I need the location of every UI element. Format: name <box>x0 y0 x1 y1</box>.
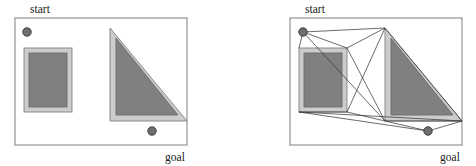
left-panel-canvas: start goal <box>0 0 238 166</box>
right-panel: start goal <box>238 0 476 166</box>
left-panel: start goal <box>0 0 238 166</box>
start-label: start <box>30 3 51 15</box>
start-node[interactable] <box>299 28 307 36</box>
rectangle-obstacle <box>29 53 67 107</box>
rectangle-obstacle <box>304 53 342 107</box>
start-node[interactable] <box>23 28 31 36</box>
start-label: start <box>305 3 326 15</box>
goal-label: goal <box>440 151 460 164</box>
right-panel-canvas: start goal <box>238 0 476 166</box>
goal-label: goal <box>165 151 185 164</box>
goal-node[interactable] <box>148 127 156 135</box>
goal-node[interactable] <box>424 127 432 135</box>
visibility-graph-figure: start goal start goal <box>0 0 476 166</box>
